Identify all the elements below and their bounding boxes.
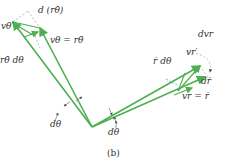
label-v-theta: vθ = rθ̇ — [50, 36, 84, 45]
label-v-r: vr = ṙ — [182, 92, 209, 101]
label-d-r-dot: dṙ — [201, 77, 211, 86]
label-dtheta-left: dθ — [50, 120, 61, 129]
label-dtheta-bottom: dθ — [108, 128, 119, 137]
vector-diagram-svg — [0, 0, 226, 163]
figure-caption: (b) — [107, 149, 120, 158]
label-d-r-theta-dot: d (rθ̇) — [38, 6, 63, 15]
r-dot-dtheta-vector — [178, 66, 200, 91]
label-dv-r: dvr — [198, 30, 213, 39]
d-r-theta-dot-vector — [24, 32, 38, 37]
v-r-vector — [92, 77, 205, 127]
label-r-theta-dot-dtheta: rθ̇ dθ — [0, 56, 24, 65]
label-r-dot-dtheta: ṙ dθ — [153, 57, 171, 66]
label-v-r-prime: vr′ — [186, 48, 197, 57]
label-v-theta-prime: vθ′ — [1, 22, 14, 31]
polar-velocity-diagram: d (rθ̇) vθ′ vθ = rθ̇ rθ̇ dθ dvr vr′ ṙ dθ… — [0, 0, 226, 163]
